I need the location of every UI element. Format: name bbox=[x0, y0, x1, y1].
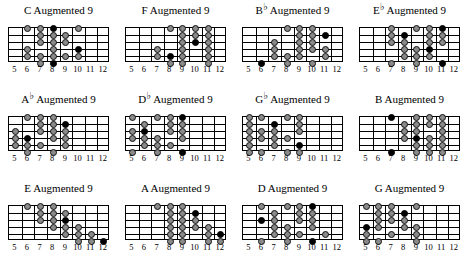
fretboard-wrapper: 56789101112 bbox=[359, 27, 460, 78]
scale-tone-dot bbox=[50, 114, 57, 121]
scale-tone-dot bbox=[296, 203, 303, 210]
scale-tone-dot bbox=[62, 53, 69, 60]
fret-number: 11 bbox=[203, 64, 211, 74]
chord-quality: Augmented 9 bbox=[153, 93, 213, 105]
scale-tone-dot bbox=[296, 210, 303, 217]
string-line bbox=[243, 227, 342, 228]
fret-number: 7 bbox=[37, 64, 41, 74]
string-line bbox=[9, 220, 108, 221]
fret-number: 9 bbox=[297, 153, 301, 163]
fret-line bbox=[47, 117, 48, 150]
fret-number: 8 bbox=[401, 64, 405, 74]
scale-tone-dot bbox=[179, 39, 186, 46]
scale-tone-dot bbox=[62, 231, 69, 238]
fret-number: 5 bbox=[246, 242, 250, 252]
fret-line bbox=[294, 117, 295, 150]
scale-tone-dot bbox=[309, 25, 316, 32]
fret-number: 7 bbox=[154, 242, 158, 252]
scale-tone-dot bbox=[309, 39, 316, 46]
scale-tone-dot bbox=[167, 210, 174, 217]
scale-tone-dot bbox=[179, 46, 186, 53]
scale-tone-dot bbox=[375, 224, 382, 231]
scale-tone-dot bbox=[50, 32, 57, 39]
scale-tone-dot bbox=[24, 203, 31, 210]
fret-line bbox=[22, 206, 23, 239]
fret-line bbox=[60, 206, 61, 239]
fret-number: 10 bbox=[307, 242, 316, 252]
fret-number: 12 bbox=[215, 153, 224, 163]
scale-tone-dot bbox=[24, 53, 31, 60]
scale-tone-dot bbox=[50, 217, 57, 224]
fret-line bbox=[164, 206, 165, 239]
scale-tone-dot bbox=[50, 53, 57, 60]
fret-number: 10 bbox=[307, 153, 316, 163]
fret-number-row: 56789101112 bbox=[125, 64, 226, 78]
scale-tone-dot bbox=[413, 128, 420, 135]
scale-tone-dot bbox=[413, 121, 420, 128]
fret-line bbox=[281, 206, 282, 239]
scale-tone-dot bbox=[296, 46, 303, 53]
fret-number: 10 bbox=[73, 153, 82, 163]
scale-tone-dot bbox=[284, 135, 291, 142]
root-note-dot bbox=[217, 231, 224, 238]
scale-tone-dot bbox=[258, 135, 265, 142]
chord-quality: Augmented 9 bbox=[33, 182, 93, 194]
fret-number: 12 bbox=[449, 242, 458, 252]
fret-number: 9 bbox=[63, 153, 67, 163]
chord-diagram-b-flat-augmented-9: B♭ Augmented 956789101112 bbox=[234, 0, 351, 89]
fret-line bbox=[268, 28, 269, 61]
fret-line bbox=[22, 28, 23, 61]
scale-tone-dot bbox=[246, 142, 253, 149]
fret-number: 10 bbox=[424, 64, 433, 74]
scale-tone-dot bbox=[439, 121, 446, 128]
fret-line bbox=[164, 117, 165, 150]
scale-tone-dot bbox=[296, 32, 303, 39]
fret-number: 9 bbox=[414, 64, 418, 74]
scale-tone-dot bbox=[426, 25, 433, 32]
scale-tone-dot bbox=[129, 135, 136, 142]
fret-line bbox=[34, 206, 35, 239]
scale-tone-dot bbox=[439, 135, 446, 142]
fret-number: 6 bbox=[142, 242, 146, 252]
scale-tone-dot bbox=[179, 217, 186, 224]
fretboard-wrapper: 56789101112 bbox=[359, 116, 460, 167]
fret-line bbox=[139, 206, 140, 239]
chord-title: E Augmented 9 bbox=[0, 182, 117, 194]
scale-tone-dot bbox=[426, 142, 433, 149]
scale-tone-dot bbox=[271, 46, 278, 53]
string-line bbox=[126, 213, 225, 214]
fret-number: 12 bbox=[449, 153, 458, 163]
scale-tone-dot bbox=[258, 128, 265, 135]
fret-number: 6 bbox=[25, 153, 29, 163]
chord-diagram-a-flat-augmented-9: A♭ Augmented 956789101112 bbox=[0, 89, 117, 178]
chord-title: D♭ Augmented 9 bbox=[117, 93, 234, 105]
fret-number: 9 bbox=[414, 242, 418, 252]
fret-number: 5 bbox=[363, 64, 367, 74]
fret-line bbox=[60, 117, 61, 150]
string-line bbox=[243, 145, 342, 146]
fret-number-row: 56789101112 bbox=[359, 242, 460, 256]
fret-line bbox=[448, 28, 449, 61]
root-note-dot bbox=[192, 210, 199, 217]
chord-root: A bbox=[141, 182, 148, 194]
scale-tone-dot bbox=[271, 217, 278, 224]
fret-line bbox=[373, 117, 374, 150]
root-note-dot bbox=[439, 25, 446, 32]
fret-line bbox=[256, 117, 257, 150]
fret-number: 11 bbox=[320, 242, 328, 252]
scale-tone-dot bbox=[413, 114, 420, 121]
scale-tone-dot bbox=[154, 135, 161, 142]
scale-tone-dot bbox=[37, 217, 44, 224]
fret-line bbox=[34, 117, 35, 150]
fret-line bbox=[85, 28, 86, 61]
fretboard-wrapper: 56789101112 bbox=[125, 27, 226, 78]
scale-tone-dot bbox=[296, 217, 303, 224]
fret-number: 7 bbox=[388, 64, 392, 74]
fret-number: 6 bbox=[142, 64, 146, 74]
root-note-dot bbox=[167, 53, 174, 60]
fret-line bbox=[177, 117, 178, 150]
fret-number: 5 bbox=[129, 64, 133, 74]
string-line bbox=[9, 227, 108, 228]
scale-tone-dot bbox=[179, 203, 186, 210]
fret-number-row: 56789101112 bbox=[125, 153, 226, 167]
